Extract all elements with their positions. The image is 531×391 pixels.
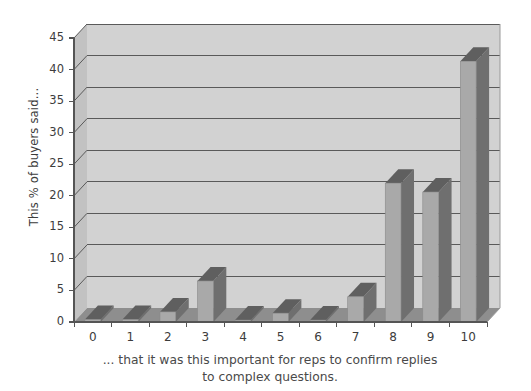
- caption-line-1: ... that it was this important for reps …: [60, 352, 480, 369]
- bar-8: [385, 169, 414, 322]
- bar-9: [423, 178, 452, 322]
- plot-side-wall: [74, 24, 87, 322]
- bar-10: [460, 47, 489, 322]
- bar-chart-figure: This % of buyers said... 051015202530354…: [0, 0, 531, 391]
- caption-line-2: to complex questions.: [60, 369, 480, 386]
- plot-area: [0, 0, 531, 391]
- x-axis-caption: ... that it was this important for reps …: [60, 352, 480, 385]
